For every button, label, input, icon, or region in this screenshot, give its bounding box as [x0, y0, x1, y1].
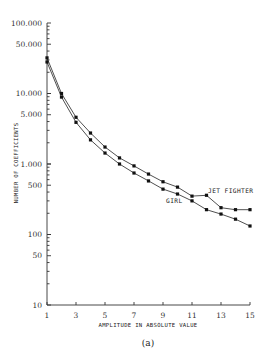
series-label-jet-fighter: JET FIGHTER: [208, 187, 253, 194]
x-tick-label: 13: [216, 311, 226, 320]
line-chart: 100.00050.00010.0005.0001.0005001005010 …: [0, 0, 268, 358]
data-point-marker: [118, 162, 121, 165]
y-tick-label: 100: [28, 230, 43, 239]
x-tick-label: 1: [45, 311, 50, 320]
x-tick-label: 3: [74, 311, 79, 320]
y-tick-label: 10: [32, 301, 42, 310]
data-point-marker: [205, 194, 208, 197]
x-tick-label: 5: [103, 311, 108, 320]
data-point-marker: [234, 218, 237, 221]
y-tick-label: 1.000: [21, 160, 43, 169]
x-axis-title: AMPLITUDE IN ABSOLUTE VALUE: [98, 322, 197, 328]
x-tick-label: 15: [245, 311, 255, 320]
data-point-marker: [103, 145, 106, 148]
x-tick-label: 7: [132, 311, 137, 320]
data-point-marker: [89, 138, 92, 141]
data-point-marker: [103, 151, 106, 154]
y-tick-label: 500: [28, 181, 43, 190]
x-tick-label: 9: [161, 311, 166, 320]
y-tick-label: 50: [32, 251, 42, 260]
y-tick-label: 5.000: [21, 110, 43, 119]
data-point-marker: [74, 116, 77, 119]
data-point-marker: [74, 121, 77, 124]
series-layer: JET FIGHTERGIRL: [45, 56, 253, 227]
y-tick-label: 10.000: [16, 89, 42, 98]
data-point-marker: [248, 208, 251, 211]
data-point-marker: [190, 195, 193, 198]
data-point-marker: [147, 179, 150, 182]
y-tick-label: 50.000: [16, 40, 42, 49]
data-point-marker: [248, 224, 251, 227]
y-axis-title: NUMBER OF COEFFICIENTS: [13, 123, 19, 204]
data-point-marker: [161, 180, 164, 183]
data-point-marker: [219, 212, 222, 215]
data-point-marker: [190, 199, 193, 202]
x-tick-label: 11: [187, 311, 197, 320]
data-point-marker: [234, 208, 237, 211]
series-label-girl: GIRL: [166, 197, 183, 204]
data-point-marker: [118, 156, 121, 159]
data-point-marker: [205, 208, 208, 211]
data-point-marker: [161, 188, 164, 191]
y-tick-label: 100.000: [11, 19, 42, 28]
data-point-marker: [132, 171, 135, 174]
data-point-marker: [219, 206, 222, 209]
data-point-marker: [89, 131, 92, 134]
data-point-marker: [60, 95, 63, 98]
x-axis: 13579111315: [45, 302, 255, 320]
data-point-marker: [176, 186, 179, 189]
data-point-marker: [45, 60, 48, 63]
series-line-girl: [47, 62, 250, 226]
data-point-marker: [147, 172, 150, 175]
data-point-marker: [45, 56, 48, 59]
data-point-marker: [176, 192, 179, 195]
figure-caption: (a): [142, 338, 154, 348]
data-point-marker: [132, 164, 135, 167]
